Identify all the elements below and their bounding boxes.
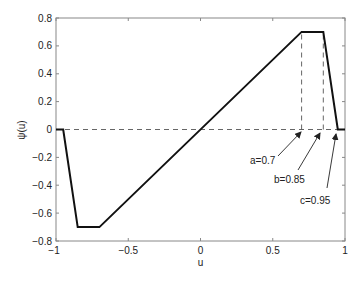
chart: 0.8 0.6 0.4 0.2 0 −0.2 −0.4 −0.6 −0.8 −1… bbox=[0, 0, 364, 289]
y-tick-label: 0.6 bbox=[38, 40, 52, 51]
x-tick-label: 0 bbox=[198, 245, 204, 256]
y-axis-label: ψ(u) bbox=[16, 120, 27, 139]
x-tick-label: 1 bbox=[342, 245, 348, 256]
reference-lines bbox=[56, 32, 345, 130]
y-tick-labels: 0.8 0.6 0.4 0.2 0 −0.2 −0.4 −0.6 −0.8 bbox=[32, 13, 52, 247]
arrow-b bbox=[298, 133, 320, 170]
annotation-c: c=0.95 bbox=[300, 195, 331, 206]
x-tick-label: −0.5 bbox=[118, 245, 138, 256]
x-tick-labels: −1 −0.5 0 0.5 1 bbox=[48, 245, 348, 256]
arrow-a bbox=[278, 132, 301, 156]
y-tick-label: −0.6 bbox=[32, 208, 52, 219]
x-axis-label: u bbox=[198, 257, 204, 268]
y-tick-label: 0 bbox=[46, 124, 52, 135]
y-tick-label: −0.4 bbox=[32, 180, 52, 191]
arrow-c bbox=[327, 134, 336, 188]
x-tick-label: −1 bbox=[48, 245, 60, 256]
y-tick-label: 0.4 bbox=[38, 68, 52, 79]
y-tick-label: 0.8 bbox=[38, 13, 52, 24]
y-tick-label: 0.2 bbox=[38, 96, 52, 107]
annotation-a: a=0.7 bbox=[250, 155, 276, 166]
x-tick-label: 0.5 bbox=[266, 245, 280, 256]
annotation-b: b=0.85 bbox=[274, 174, 305, 185]
y-tick-label: −0.2 bbox=[32, 152, 52, 163]
